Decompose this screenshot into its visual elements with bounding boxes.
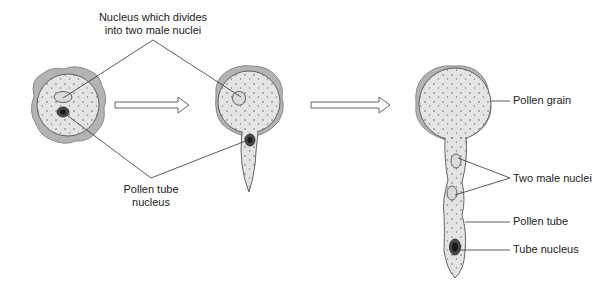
progress-arrow-1 — [115, 97, 189, 113]
male-nucleus-1 — [451, 154, 461, 168]
stage-1-pollen-grain — [31, 67, 105, 144]
male-nucleus-2 — [447, 186, 457, 200]
generative-nucleus — [233, 91, 246, 105]
label-pollen-tube: Pollen tube — [513, 215, 568, 228]
label-generative-nucleus: Nucleus which divides into two male nucl… — [99, 11, 207, 37]
stage-3-mature-pollen-tube — [416, 66, 491, 278]
label-pollen-grain: Pollen grain — [513, 94, 571, 107]
label-two-male-nuclei: Two male nuclei — [513, 172, 592, 185]
stage-2-germinating-grain — [216, 66, 284, 192]
label-tube-nucleus: Tube nucleus — [513, 243, 579, 256]
generative-nucleus — [54, 92, 72, 103]
label-pollen-tube-nucleus: Pollen tube nucleus — [123, 183, 178, 209]
progress-arrow-2 — [311, 97, 390, 113]
